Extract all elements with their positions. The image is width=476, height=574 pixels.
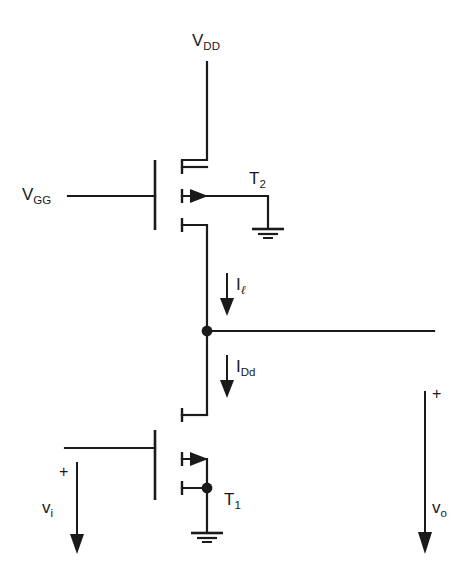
label-t1: T1 [224, 491, 241, 512]
label-vi: vi [42, 499, 53, 520]
label-vdd-base: V [192, 31, 203, 50]
t2-body-arrow [190, 189, 208, 203]
label-vo-sub: o [441, 507, 447, 519]
circuit-diagram-canvas: VDD VGG T2 Iℓ IDd T1 + vi + vo [0, 0, 476, 574]
current-arrow-drain [220, 356, 234, 398]
label-vo: vo [432, 499, 447, 520]
label-vi-sub: i [51, 507, 54, 519]
label-t2-sub: 2 [259, 178, 265, 190]
label-vgg-sub: GG [33, 194, 51, 206]
t1-source-node-dot [202, 483, 213, 494]
label-vdd-sub: DD [203, 40, 220, 52]
label-t1-sub: 1 [234, 499, 240, 511]
label-current-load-sub: ℓ [241, 283, 246, 297]
label-current-drain-sub: Dd [241, 366, 256, 378]
label-t1-base: T [224, 490, 234, 509]
label-vdd: VDD [192, 32, 220, 53]
vdd-rail-wire [182, 62, 207, 160]
label-vgg: VGG [22, 186, 51, 207]
ground-t2 [252, 229, 284, 238]
vi-voltage-arrow [70, 463, 84, 554]
label-t2-base: T [249, 169, 259, 188]
vo-voltage-arrow [418, 392, 432, 554]
t1-body-arrow [190, 452, 208, 466]
current-arrow-load [220, 274, 234, 316]
ground-t1 [191, 533, 223, 542]
label-current-load: Iℓ [236, 276, 246, 296]
label-plus-input: + [59, 464, 68, 480]
label-plus-output: + [432, 386, 441, 402]
label-t2: T2 [249, 170, 266, 191]
label-vo-base: v [432, 498, 441, 517]
label-vi-base: v [42, 498, 51, 517]
output-node-group [202, 326, 434, 337]
label-current-drain: IDd [236, 358, 255, 379]
transistor-t1 [155, 408, 212, 532]
output-to-t1-drain-wire [182, 331, 207, 415]
label-vgg-base: V [22, 185, 33, 204]
